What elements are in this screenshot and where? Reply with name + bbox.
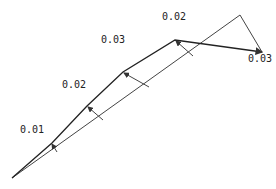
station-label-2: 0.02 (62, 80, 86, 90)
ordinate-arrow-4 (176, 41, 193, 56)
ordinate-arrow-3 (124, 73, 149, 87)
deflection-diagram (0, 0, 276, 189)
station-label-1: 0.01 (20, 125, 44, 135)
station-label-5: 0.03 (248, 54, 272, 64)
closing-segment (240, 15, 262, 52)
deflection-curve (12, 40, 262, 178)
station-label-3: 0.03 (101, 35, 125, 45)
station-label-4: 0.02 (162, 12, 186, 22)
baseline (12, 15, 240, 178)
ordinate-arrow-1 (52, 144, 57, 152)
